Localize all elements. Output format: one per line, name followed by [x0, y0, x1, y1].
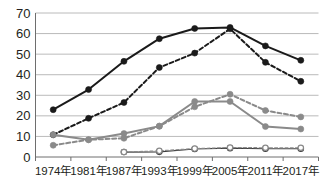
- data-point-marker: [121, 58, 127, 64]
- data-point-marker: [298, 126, 304, 132]
- y-axis-tick-label: 70: [16, 6, 30, 21]
- data-point-marker: [50, 132, 56, 138]
- data-point-marker: [298, 57, 304, 63]
- x-axis-tick-label: 2011年: [248, 164, 284, 177]
- data-point-marker: [156, 65, 162, 71]
- x-axis-tick-label: 1987年: [106, 164, 143, 177]
- y-axis-tick-label: 20: [16, 108, 30, 123]
- data-point-marker: [298, 145, 303, 150]
- x-axis-tick-label: 1974年: [35, 164, 72, 177]
- x-axis-tick-label: 1993年: [141, 164, 178, 177]
- x-axis-labels-group: 1974年1981年1987年1993年1999年2005年2011年2017年: [35, 164, 319, 177]
- data-point-marker: [121, 135, 127, 141]
- y-axis-tick-label: 30: [16, 88, 30, 103]
- series-5-group: [121, 145, 303, 154]
- data-point-marker: [86, 115, 92, 121]
- y-axis-tick-label: 10: [16, 129, 30, 144]
- data-point-marker: [121, 99, 127, 105]
- y-axis-tick-label: 50: [16, 47, 30, 62]
- data-point-marker: [156, 36, 162, 42]
- chart-canvas: 0102030405060701974年1981年1987年1993年1999年…: [0, 0, 326, 186]
- series-6-group: [121, 145, 303, 155]
- x-axis-tick-label: 1999年: [176, 164, 213, 177]
- x-axis-tick-label: 2005年: [212, 164, 249, 177]
- data-point-marker: [157, 148, 162, 153]
- data-point-marker: [50, 107, 56, 113]
- data-point-marker: [262, 108, 268, 114]
- data-point-marker: [50, 142, 56, 148]
- data-point-marker: [227, 26, 233, 32]
- data-point-marker: [262, 43, 268, 49]
- data-point-marker: [298, 114, 304, 120]
- data-point-marker: [156, 123, 162, 129]
- series-1-group: [50, 24, 304, 112]
- y-axis-tick-label: 0: [23, 150, 30, 165]
- x-axis-tick-label: 1981年: [70, 164, 107, 177]
- data-point-marker: [121, 149, 126, 154]
- data-point-marker: [298, 78, 304, 84]
- data-point-marker: [227, 98, 233, 104]
- data-point-marker: [227, 145, 232, 150]
- data-point-marker: [192, 104, 198, 110]
- y-axis-tick-label: 60: [16, 26, 30, 41]
- data-point-marker: [262, 124, 268, 130]
- data-point-marker: [192, 50, 198, 56]
- gridlines-group: 010203040506070: [16, 6, 318, 165]
- data-point-marker: [227, 91, 233, 97]
- data-point-marker: [86, 87, 92, 93]
- data-point-marker: [192, 146, 197, 151]
- data-point-marker: [262, 59, 268, 65]
- data-point-marker: [263, 145, 268, 150]
- data-point-marker: [192, 25, 198, 31]
- y-axis-tick-label: 40: [16, 67, 30, 82]
- line-chart: 0102030405060701974年1981年1987年1993年1999年…: [0, 0, 326, 186]
- x-axis-tick-label: 2017年: [283, 164, 320, 177]
- series-line: [53, 27, 301, 109]
- data-point-marker: [86, 137, 92, 143]
